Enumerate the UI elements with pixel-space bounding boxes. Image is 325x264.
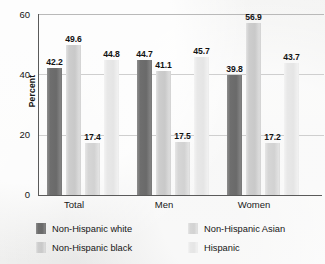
bar-value-label: 44.7 (136, 49, 152, 59)
bar-total-hispanic[interactable]: 44.8 (104, 60, 119, 195)
bar-men-non-hispanic-asian[interactable]: 17.5 (175, 142, 190, 195)
legend-swatch-non-hispanic-white (36, 223, 46, 234)
category-label-men: Men (129, 199, 199, 210)
bar-total-non-hispanic-asian[interactable]: 17.4 (85, 143, 100, 195)
y-tick-60: 60 (10, 10, 30, 20)
bar-women-non-hispanic-white[interactable]: 39.8 (227, 75, 242, 195)
bar-value-label: 39.8 (226, 64, 242, 74)
bar-value-label: 43.7 (283, 52, 299, 62)
category-label-total: Total (39, 199, 109, 210)
bar-value-label: 41.1 (155, 60, 171, 70)
bar-value-label: 44.8 (103, 49, 119, 59)
bar-women-non-hispanic-black[interactable]: 56.9 (246, 23, 261, 195)
legend-item-non-hispanic-white[interactable]: Non-Hispanic white (36, 223, 188, 234)
bar-group-total: 42.249.617.444.8 (47, 14, 123, 195)
legend-label-non-hispanic-asian: Non-Hispanic Asian (204, 224, 285, 234)
category-label-women: Women (219, 199, 289, 210)
bar-value-label: 17.4 (84, 132, 100, 142)
bar-group-men: 44.741.117.545.7 (137, 14, 213, 195)
legend-label-non-hispanic-black: Non-Hispanic black (52, 243, 132, 253)
y-tick-40: 40 (10, 70, 30, 80)
bar-total-non-hispanic-white[interactable]: 42.2 (47, 68, 62, 195)
plot-area: 42.249.617.444.844.741.117.545.739.856.9… (38, 14, 322, 196)
y-tick-20: 20 (10, 130, 30, 140)
bar-value-label: 45.7 (193, 46, 209, 56)
bar-value-label: 17.5 (174, 131, 190, 141)
bar-women-non-hispanic-asian[interactable]: 17.2 (265, 143, 280, 195)
legend-swatch-hispanic (188, 242, 198, 253)
legend-row-1: Non-Hispanic white Non-Hispanic Asian (36, 219, 316, 238)
chart-legend: Non-Hispanic white Non-Hispanic Asian No… (36, 219, 316, 257)
bar-group-women: 39.856.917.243.7 (227, 14, 303, 195)
legend-label-non-hispanic-white: Non-Hispanic white (52, 224, 132, 234)
bars-layer: 42.249.617.444.844.741.117.545.739.856.9… (39, 14, 322, 195)
legend-item-non-hispanic-asian[interactable]: Non-Hispanic Asian (188, 223, 285, 234)
bar-women-hispanic[interactable]: 43.7 (284, 63, 299, 195)
bar-men-non-hispanic-white[interactable]: 44.7 (137, 60, 152, 195)
grouped-bar-chart: Percent 60 40 20 0 42.249.617.444.844.74… (0, 0, 325, 264)
legend-swatch-non-hispanic-black (36, 242, 46, 253)
bar-men-non-hispanic-black[interactable]: 41.1 (156, 71, 171, 195)
y-tick-0: 0 (10, 190, 30, 200)
bar-value-label: 49.6 (65, 34, 81, 44)
bar-value-label: 17.2 (264, 132, 280, 142)
bar-men-hispanic[interactable]: 45.7 (194, 57, 209, 195)
legend-label-hispanic: Hispanic (204, 243, 240, 253)
bar-value-label: 42.2 (46, 57, 62, 67)
y-axis-tick-labels: 60 40 20 0 (8, 0, 30, 264)
bar-value-label: 56.9 (245, 12, 261, 22)
bar-total-non-hispanic-black[interactable]: 49.6 (66, 45, 81, 195)
legend-item-hispanic[interactable]: Hispanic (188, 242, 240, 253)
legend-item-non-hispanic-black[interactable]: Non-Hispanic black (36, 242, 188, 253)
legend-row-2: Non-Hispanic black Hispanic (36, 238, 316, 257)
legend-swatch-non-hispanic-asian (188, 223, 198, 234)
